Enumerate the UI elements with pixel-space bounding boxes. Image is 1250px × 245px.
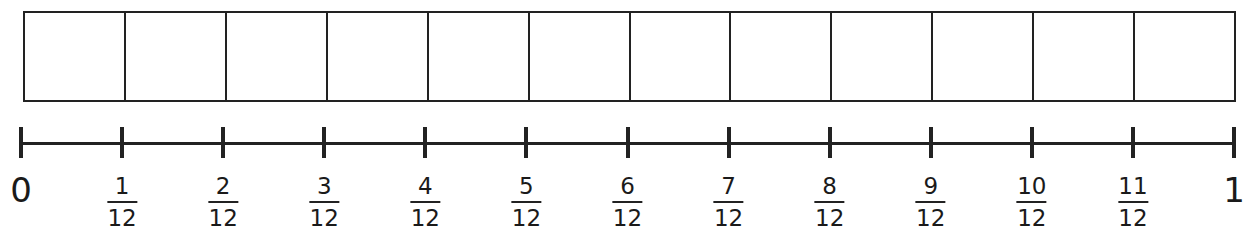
bar-cell	[530, 13, 631, 100]
fraction-denominator: 12	[409, 206, 442, 230]
bar-cell	[328, 13, 429, 100]
fraction-numerator: 8	[820, 174, 839, 198]
bar-cell	[832, 13, 933, 100]
fraction-numerator: 1	[113, 174, 132, 198]
tick-mark	[423, 127, 427, 158]
bar-cell	[631, 13, 732, 100]
fraction: 412	[409, 174, 442, 230]
tick-label-fraction: 812	[813, 174, 846, 230]
fraction-bar	[1017, 201, 1047, 203]
tick-mark	[221, 127, 225, 158]
fraction-numerator: 10	[1015, 174, 1048, 198]
fraction-bar	[714, 201, 744, 203]
tick-mark	[1232, 127, 1236, 158]
fraction-numerator: 7	[719, 174, 738, 198]
tick-mark	[19, 127, 23, 158]
bar-cell	[1034, 13, 1135, 100]
tick-mark	[727, 127, 731, 158]
tick-mark	[1030, 127, 1034, 158]
tick-label-fraction: 712	[712, 174, 745, 230]
fraction-denominator: 12	[308, 206, 341, 230]
fraction: 212	[207, 174, 240, 230]
fraction: 812	[813, 174, 846, 230]
tick-mark	[322, 127, 326, 158]
tick-label-fraction: 1112	[1116, 174, 1149, 230]
fraction-denominator: 12	[611, 206, 644, 230]
fraction-bar	[916, 201, 946, 203]
bar-cell	[933, 13, 1034, 100]
bar-cell	[25, 13, 126, 100]
fraction-numerator: 2	[214, 174, 233, 198]
fraction: 912	[914, 174, 947, 230]
fraction-numerator: 4	[416, 174, 435, 198]
fraction-bar	[107, 201, 137, 203]
fraction-denominator: 12	[105, 206, 138, 230]
tick-label-fraction: 112	[105, 174, 138, 230]
tick-mark	[1131, 127, 1135, 158]
tick-label-whole: 0	[10, 173, 32, 207]
fraction-bar	[815, 201, 845, 203]
fraction-bar	[208, 201, 238, 203]
bar-model	[23, 11, 1236, 102]
fraction-numerator: 3	[315, 174, 334, 198]
tick-label-fraction: 512	[510, 174, 543, 230]
fraction-denominator: 12	[914, 206, 947, 230]
bar-cell	[731, 13, 832, 100]
bar-cell	[227, 13, 328, 100]
tick-label-fraction: 312	[308, 174, 341, 230]
tick-mark	[828, 127, 832, 158]
fraction: 312	[308, 174, 341, 230]
tick-label-fraction: 612	[611, 174, 644, 230]
fraction: 112	[105, 174, 138, 230]
tick-label-fraction: 912	[914, 174, 947, 230]
tick-label-whole: 1	[1223, 173, 1245, 207]
tick-label-fraction: 1012	[1015, 174, 1048, 230]
fraction-numerator: 11	[1116, 174, 1149, 198]
fraction: 612	[611, 174, 644, 230]
fraction: 512	[510, 174, 543, 230]
fraction-numerator: 5	[517, 174, 536, 198]
fraction-bar	[613, 201, 643, 203]
bar-cell	[429, 13, 530, 100]
tick-mark	[626, 127, 630, 158]
fraction: 1012	[1015, 174, 1048, 230]
fraction-bar	[1118, 201, 1148, 203]
tick-mark	[929, 127, 933, 158]
tick-mark	[120, 127, 124, 158]
tick-label-fraction: 412	[409, 174, 442, 230]
tick-label-fraction: 212	[207, 174, 240, 230]
tick-mark	[524, 127, 528, 158]
fraction-numerator: 9	[921, 174, 940, 198]
fraction-denominator: 12	[1015, 206, 1048, 230]
fraction-denominator: 12	[207, 206, 240, 230]
fraction-denominator: 12	[813, 206, 846, 230]
fraction-bar	[511, 201, 541, 203]
fraction: 1112	[1116, 174, 1149, 230]
bar-cell	[1135, 13, 1234, 100]
fraction-denominator: 12	[510, 206, 543, 230]
fraction-diagram: 0112212312412512612712812912101211121	[0, 0, 1250, 245]
fraction: 712	[712, 174, 745, 230]
fraction-bar	[309, 201, 339, 203]
fraction-bar	[410, 201, 440, 203]
fraction-numerator: 6	[618, 174, 637, 198]
bar-cell	[126, 13, 227, 100]
fraction-denominator: 12	[712, 206, 745, 230]
fraction-denominator: 12	[1116, 206, 1149, 230]
